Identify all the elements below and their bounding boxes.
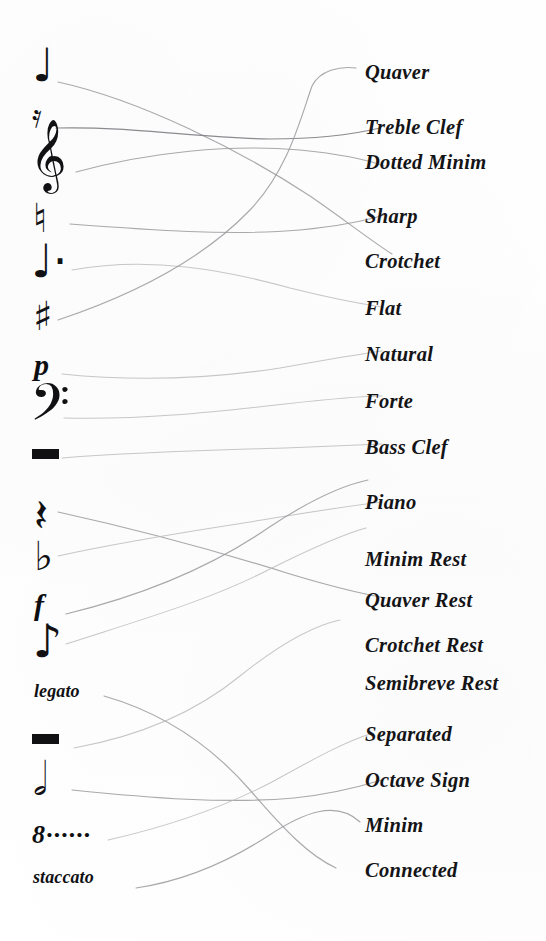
- label-quaver[interactable]: Quaver: [365, 62, 429, 83]
- natural-sign-symbol[interactable]: ♮: [33, 198, 183, 238]
- label-bass-clef[interactable]: Bass Clef: [365, 437, 448, 458]
- minim-rest-symbol[interactable]: [32, 446, 182, 463]
- label-sharp[interactable]: Sharp: [365, 206, 418, 227]
- worksheet-page: ♩ 𝄿 𝄞 ♮ ♩· ♯ p 𝄢 𝄽 ♭ f ♪ legato: [0, 0, 546, 941]
- treble-clef-symbol[interactable]: 𝄞: [30, 124, 180, 186]
- label-crotchet[interactable]: Crotchet: [365, 251, 440, 272]
- crotchet-rest-glyph: 𝄽: [34, 492, 48, 538]
- bass-clef-glyph: 𝄢: [30, 378, 70, 440]
- flat-glyph: ♭: [34, 536, 53, 576]
- sharp-sign-symbol[interactable]: ♯: [33, 296, 183, 336]
- label-separated[interactable]: Separated: [365, 724, 452, 745]
- dotted-minim-glyph: ♩·: [31, 238, 67, 284]
- label-semibreve-rest[interactable]: Semibreve Rest: [365, 673, 498, 694]
- minim-note-symbol[interactable]: 𝅗𝅥: [33, 756, 183, 802]
- natural-glyph: ♮: [33, 198, 47, 238]
- crotchet-glyph: ♩: [32, 42, 54, 88]
- flat-sign-symbol[interactable]: ♭: [34, 536, 184, 576]
- label-octave-sign[interactable]: Octave Sign: [365, 770, 470, 791]
- legato-label: legato: [34, 682, 80, 700]
- crotchet-note-symbol[interactable]: ♩: [32, 42, 182, 88]
- octave-sign-symbol[interactable]: 8······: [32, 822, 182, 848]
- crotchet-rest-symbol[interactable]: 𝄽: [34, 492, 184, 538]
- label-natural[interactable]: Natural: [365, 344, 433, 365]
- legato-term[interactable]: legato: [34, 682, 184, 700]
- sharp-glyph: ♯: [33, 296, 52, 336]
- label-piano[interactable]: Piano: [365, 492, 417, 513]
- bass-clef-symbol[interactable]: 𝄢: [30, 378, 180, 440]
- octave-sign-glyph: 8······: [32, 822, 91, 848]
- label-treble-clef[interactable]: Treble Clef: [365, 117, 463, 138]
- quaver-note-symbol[interactable]: ♪: [33, 618, 183, 664]
- label-forte[interactable]: Forte: [365, 391, 413, 412]
- semibreve-rest-symbol[interactable]: [32, 733, 182, 750]
- dotted-minim-symbol[interactable]: ♩·: [31, 238, 181, 284]
- treble-clef-glyph: 𝄞: [30, 124, 67, 186]
- minim-rest-glyph: [32, 447, 62, 463]
- label-minim[interactable]: Minim: [365, 815, 423, 836]
- label-connected[interactable]: Connected: [365, 860, 458, 881]
- quaver-glyph: ♪: [33, 618, 62, 664]
- label-quaver-rest[interactable]: Quaver Rest: [365, 590, 473, 611]
- label-minim-rest[interactable]: Minim Rest: [365, 549, 467, 570]
- staccato-label: staccato: [33, 868, 94, 886]
- staccato-term[interactable]: staccato: [33, 868, 183, 886]
- label-dotted-minim[interactable]: Dotted Minim: [365, 152, 487, 173]
- label-crotchet-rest[interactable]: Crotchet Rest: [365, 635, 483, 656]
- minim-glyph: 𝅗𝅥: [33, 756, 47, 802]
- semibreve-rest-glyph: [32, 734, 62, 750]
- label-flat[interactable]: Flat: [365, 298, 402, 319]
